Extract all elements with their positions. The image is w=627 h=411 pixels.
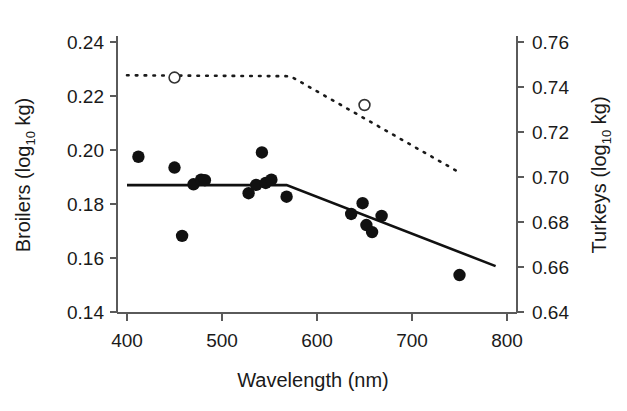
scatter-plot: 0.24 0.22 0.20 0.18 0.16 0.14 0.76 0.74 … bbox=[0, 0, 627, 411]
left-tick-label-0.20: 0.20 bbox=[67, 140, 104, 161]
data-point-broilers bbox=[199, 174, 211, 186]
x-tick-label-400: 400 bbox=[111, 330, 143, 351]
right-tick-label-0.76: 0.76 bbox=[532, 32, 569, 53]
data-point-broilers bbox=[168, 161, 180, 173]
right-tick-label-0.64: 0.64 bbox=[532, 302, 569, 323]
turkeys-segmented-fit bbox=[127, 75, 460, 172]
broilers-data-points bbox=[132, 146, 466, 281]
data-point-turkeys bbox=[169, 72, 180, 83]
svg-text:Turkeys (log10 kg): Turkeys (log10 kg) bbox=[588, 96, 614, 253]
x-tick-label-700: 700 bbox=[396, 330, 428, 351]
data-point-broilers bbox=[256, 146, 268, 158]
right-axis-title-tail: kg) bbox=[588, 96, 610, 129]
data-point-turkeys bbox=[359, 100, 370, 111]
broilers-fit-line bbox=[127, 185, 496, 266]
x-axis-tick-labels: 400 500 600 700 800 bbox=[111, 330, 523, 351]
chart-figure: 0.24 0.22 0.20 0.18 0.16 0.14 0.76 0.74 … bbox=[0, 0, 627, 411]
left-axis-title-tail: kg) bbox=[12, 98, 34, 131]
x-tick-label-600: 600 bbox=[301, 330, 333, 351]
data-point-broilers bbox=[132, 151, 144, 163]
data-point-broilers bbox=[265, 174, 277, 186]
left-axis-title-subscript: 10 bbox=[23, 131, 38, 145]
broilers-segmented-fit bbox=[127, 185, 496, 266]
right-axis-ticks bbox=[517, 42, 524, 312]
x-axis-ticks bbox=[127, 313, 507, 321]
data-point-broilers bbox=[375, 210, 387, 222]
right-tick-label-0.72: 0.72 bbox=[532, 122, 569, 143]
x-tick-label-500: 500 bbox=[206, 330, 238, 351]
left-axis-ticks bbox=[110, 42, 117, 312]
data-point-broilers bbox=[453, 269, 465, 281]
data-point-broilers bbox=[366, 226, 378, 238]
left-tick-label-0.16: 0.16 bbox=[67, 248, 104, 269]
data-point-broilers bbox=[356, 197, 368, 209]
right-tick-label-0.66: 0.66 bbox=[532, 257, 569, 278]
left-tick-label-0.22: 0.22 bbox=[67, 86, 104, 107]
right-axis-title-main: Turkeys (log bbox=[588, 144, 610, 253]
right-axis-title: Turkeys (log10 kg) bbox=[588, 96, 614, 253]
left-tick-label-0.14: 0.14 bbox=[67, 302, 104, 323]
data-point-broilers bbox=[345, 208, 357, 220]
left-axis-title-main: Broilers (log bbox=[12, 146, 34, 253]
right-tick-label-0.74: 0.74 bbox=[532, 77, 569, 98]
x-axis-title: Wavelength (nm) bbox=[237, 369, 389, 391]
right-axis-title-subscript: 10 bbox=[599, 130, 614, 144]
left-axis-title: Broilers (log10 kg) bbox=[12, 98, 38, 253]
right-axis-tick-labels: 0.76 0.74 0.72 0.70 0.68 0.66 0.64 bbox=[532, 32, 569, 323]
right-tick-label-0.68: 0.68 bbox=[532, 212, 569, 233]
turkeys-fit-line bbox=[127, 75, 460, 172]
right-tick-label-0.70: 0.70 bbox=[532, 167, 569, 188]
left-tick-label-0.24: 0.24 bbox=[67, 32, 104, 53]
data-point-broilers bbox=[280, 191, 292, 203]
x-tick-label-800: 800 bbox=[491, 330, 523, 351]
data-point-broilers bbox=[176, 230, 188, 242]
svg-text:Broilers (log10 kg): Broilers (log10 kg) bbox=[12, 98, 38, 253]
left-axis-tick-labels: 0.24 0.22 0.20 0.18 0.16 0.14 bbox=[67, 32, 104, 323]
left-tick-label-0.18: 0.18 bbox=[67, 194, 104, 215]
